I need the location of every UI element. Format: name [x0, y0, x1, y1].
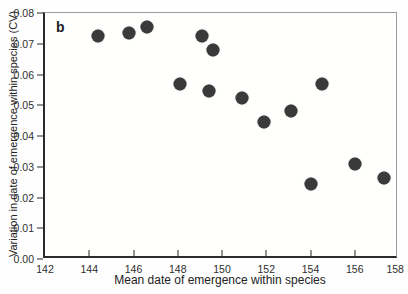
y-axis-tick: [37, 136, 43, 137]
data-point: [284, 105, 297, 118]
plot-area: b 0.000.010.020.030.040.050.060.070.0814…: [43, 12, 397, 258]
y-tick-label: 0.05: [14, 99, 34, 111]
data-point: [207, 43, 220, 56]
data-point: [315, 77, 328, 90]
x-axis-tick: [310, 250, 311, 256]
y-tick-label: 0.00: [14, 253, 34, 265]
data-point: [140, 20, 153, 33]
y-axis-tick: [37, 13, 43, 14]
y-axis-tick: [37, 166, 43, 167]
y-axis-tick: [37, 197, 43, 198]
data-point: [304, 177, 317, 190]
x-axis-tick: [222, 250, 223, 256]
data-point: [92, 30, 105, 43]
y-tick-label: 0.03: [14, 161, 34, 173]
y-tick-label: 0.01: [14, 222, 34, 234]
x-axis-title: Mean date of emergence within species: [43, 273, 397, 287]
data-point: [348, 157, 361, 170]
data-point: [173, 77, 186, 90]
data-point: [235, 91, 248, 104]
x-axis-tick: [177, 250, 178, 256]
y-axis-tick: [37, 43, 43, 44]
panel-label: b: [56, 19, 65, 35]
x-axis-tick: [89, 250, 90, 256]
y-tick-label: 0.06: [14, 69, 34, 81]
data-point: [258, 116, 271, 129]
data-point: [123, 26, 136, 39]
y-axis-tick: [37, 74, 43, 75]
y-axis-tick: [37, 105, 43, 106]
x-axis-tick: [133, 250, 134, 256]
data-point: [377, 171, 390, 184]
scatter-figure: Variation in date of emergence within sp…: [0, 0, 408, 294]
y-tick-label: 0.04: [14, 130, 34, 142]
data-point: [202, 85, 215, 98]
x-axis-tick: [354, 250, 355, 256]
y-axis-tick: [37, 259, 43, 260]
y-tick-label: 0.02: [14, 192, 34, 204]
y-tick-label: 0.07: [14, 38, 34, 50]
data-point: [196, 30, 209, 43]
x-axis-tick: [266, 250, 267, 256]
y-tick-label: 0.08: [14, 7, 34, 19]
y-axis-tick: [37, 228, 43, 229]
